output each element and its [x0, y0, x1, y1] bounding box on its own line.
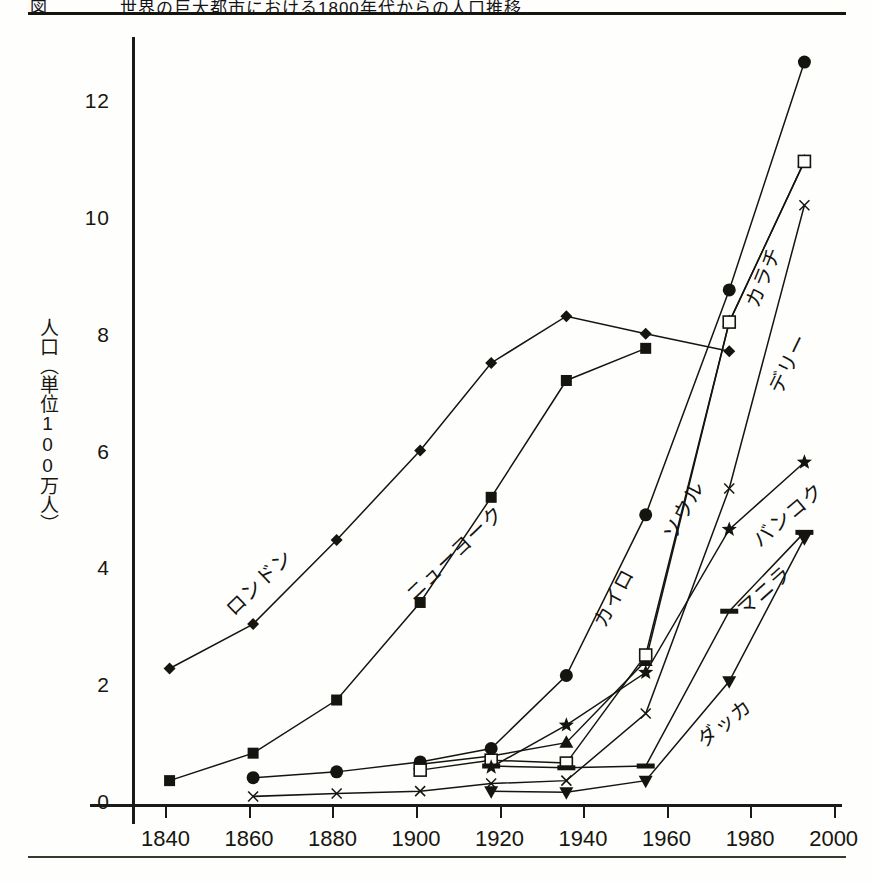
data-point-marker: [639, 508, 652, 521]
data-point-marker: [561, 375, 572, 386]
data-point-marker: [414, 764, 426, 776]
chart-series-canvas: [0, 0, 873, 883]
population-growth-figure: 図 世界の巨大都市における1800年代からの人口推移 人口（単位100万人） 0…: [0, 0, 873, 883]
data-point-marker: [248, 748, 259, 759]
data-point-marker: [640, 649, 652, 661]
series-cairo: [247, 56, 811, 785]
series-seoul: [413, 154, 811, 769]
data-point-marker: [560, 310, 572, 322]
series-line: [170, 348, 646, 780]
series-line: [253, 62, 804, 778]
series-line: [420, 161, 804, 764]
data-point-marker: [641, 708, 651, 718]
series-line: [170, 316, 730, 668]
data-point-marker: [482, 764, 500, 769]
data-point-marker: [723, 283, 736, 296]
data-point-marker: [797, 533, 811, 546]
data-point-marker: [799, 200, 809, 210]
data-point-marker: [720, 609, 738, 614]
data-point-marker: [164, 662, 176, 674]
data-point-marker: [559, 787, 573, 800]
data-point-marker: [640, 343, 651, 354]
data-point-marker: [724, 484, 734, 494]
data-point-marker: [640, 328, 652, 340]
data-point-marker: [559, 717, 574, 731]
series-karachi: [414, 155, 810, 776]
data-point-marker: [484, 786, 498, 799]
series-line: [420, 161, 804, 770]
data-point-marker: [331, 695, 342, 706]
data-point-marker: [723, 345, 735, 357]
data-point-marker: [560, 669, 573, 682]
series-london: [164, 310, 736, 674]
data-point-marker: [723, 316, 735, 328]
data-point-marker: [247, 771, 260, 784]
data-point-marker: [798, 56, 811, 69]
data-point-marker: [637, 764, 655, 769]
data-point-marker: [722, 521, 737, 535]
series-bangkok: [484, 454, 812, 773]
data-point-marker: [557, 765, 575, 770]
series-new-york: [164, 343, 651, 786]
data-point-marker: [798, 155, 810, 167]
data-point-marker: [330, 765, 343, 778]
data-point-marker: [164, 775, 175, 786]
